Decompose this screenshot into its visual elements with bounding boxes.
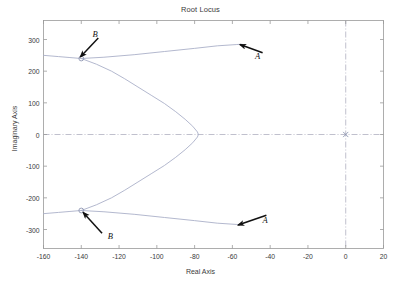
locus-branch [44,211,82,214]
x-tick-label: -20 [303,253,313,260]
annotation-label-b: B [108,231,113,241]
x-tick-label: -40 [265,253,275,260]
y-tick-label: -100 [14,163,40,170]
y-tick-label: 200 [14,68,40,75]
locus-branch [44,44,242,58]
annotation-label-b: B [93,29,98,39]
x-tick-label: 20 [380,253,388,260]
annotation-arrow-b [83,212,102,233]
y-tick-label: 100 [14,99,40,106]
x-tick-label: -160 [37,253,51,260]
locus-branch [81,211,242,225]
x-tick-label: -80 [190,253,200,260]
y-tick-label: -200 [14,194,40,201]
locus-branch [81,59,198,135]
x-axis-label: Real Axis [0,268,401,275]
annotation-label-a: A [263,215,268,225]
y-tick-label: 300 [14,36,40,43]
x-tick-label: -120 [112,253,126,260]
plot-canvas [0,0,401,286]
root-locus-figure: Root Locus Imaginary Axis Real Axis -160… [0,0,401,286]
x-tick-label: 0 [344,253,348,260]
x-tick-label: -100 [150,253,164,260]
annotation-arrow-b [80,38,98,57]
y-tick-label: 0 [14,131,40,138]
x-tick-label: -140 [74,253,88,260]
x-tick-label: -60 [227,253,237,260]
annotation-label-a: A [255,51,260,61]
y-tick-label: -300 [14,226,40,233]
locus-branch [81,135,198,211]
